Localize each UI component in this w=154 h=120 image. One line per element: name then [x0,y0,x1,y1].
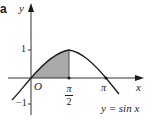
panel-label: a [0,3,7,15]
shaded-region [31,50,69,78]
x-tick-label-half-pi: π 2 [65,84,73,107]
pi-point [104,76,107,79]
y-axis-label: y [19,3,24,14]
y-axis-arrow-icon [28,3,34,12]
curve-label: y = sin x [101,103,139,114]
half-pi-denominator: 2 [67,97,72,107]
half-pi-numerator: π [66,84,71,94]
y-tick-label-1: 1 [21,44,26,54]
origin-label: O [34,81,42,92]
x-tick-label-pi: π [101,83,106,93]
x-axis-label: x [136,82,141,93]
y-tick-label-neg1: −1 [16,98,27,108]
half-pi-point [67,76,70,79]
